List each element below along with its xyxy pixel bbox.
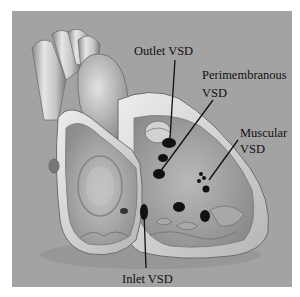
perimembranous-vsd-label-line1: Perimembranous — [202, 68, 287, 82]
inlet-vsd-label: Inlet VSD — [122, 272, 173, 286]
perimembranous-vsd-label-line2: VSD — [202, 86, 227, 100]
outlet-vsd-label: Outlet VSD — [134, 44, 193, 58]
muscular-vsd-label-line1: Muscular — [240, 126, 287, 140]
muscular-vsd-label-line2: VSD — [240, 142, 265, 156]
